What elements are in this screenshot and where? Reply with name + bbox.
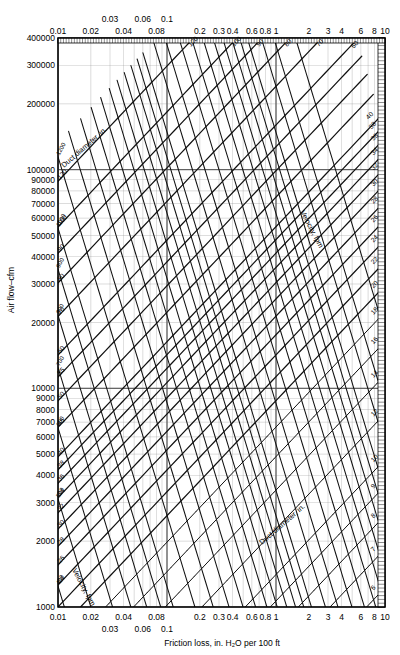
y-axis-caption: Air flow–cfm [6,267,16,313]
x-axis-caption: Friction loss, in. H₂O per 100 ft [164,638,280,648]
duct-friction-chart: 6789101214161820222424262628283030323234… [0,0,400,655]
axis-caption-layer: Friction loss, in. H₂O per 100 ft Air fl… [0,0,400,655]
